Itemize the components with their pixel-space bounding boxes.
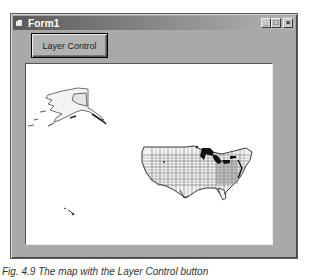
- window-controls: _ □ ×: [261, 18, 293, 28]
- figure-caption: Fig. 4.9 The map with the Layer Control …: [2, 266, 208, 277]
- minimize-button[interactable]: _: [261, 18, 271, 28]
- map-canvas: [26, 64, 273, 245]
- maximize-button[interactable]: □: [271, 18, 281, 28]
- form-window: Form1 _ □ × Layer Control: [10, 13, 298, 259]
- window-title: Form1: [28, 18, 60, 29]
- layer-control-button[interactable]: Layer Control: [31, 33, 108, 58]
- alaska-shape: [28, 88, 106, 126]
- form-icon: [16, 20, 24, 27]
- map-control[interactable]: [25, 63, 273, 245]
- contiguous-us-shape: [142, 146, 252, 200]
- close-button[interactable]: ×: [283, 18, 293, 28]
- hawaii-shape: [64, 208, 74, 215]
- title-bar[interactable]: Form1 _ □ ×: [13, 16, 295, 30]
